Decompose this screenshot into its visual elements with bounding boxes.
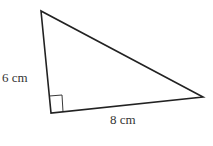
triangle <box>41 11 203 113</box>
horizontal-leg-label: 8 cm <box>110 112 136 127</box>
vertical-leg-label: 6 cm <box>2 70 28 85</box>
right-triangle-diagram: 6 cm 8 cm <box>0 0 213 146</box>
